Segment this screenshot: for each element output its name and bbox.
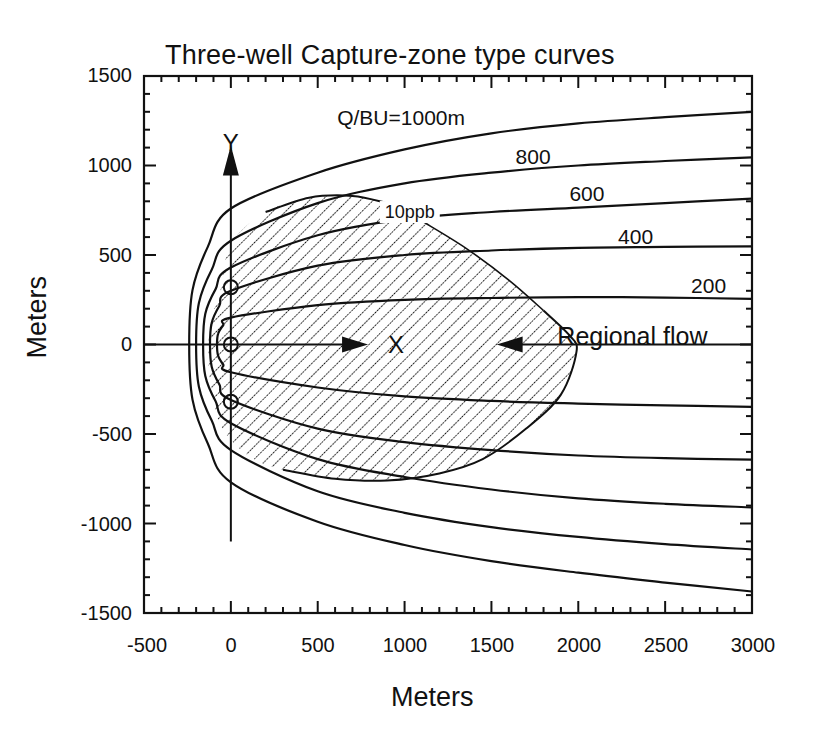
annotation-label: X [388, 331, 404, 358]
annotation-label: 200 [691, 274, 726, 297]
annotation-label: Y [223, 129, 239, 156]
annotation-label: 10ppb [385, 202, 435, 222]
annotation-label: 800 [516, 145, 551, 168]
annotation-label: Regional flow [557, 322, 708, 350]
plot-area: Q/BU=1000m80060040020010ppbXYRegional fl… [0, 0, 821, 752]
annotation-label: Q/BU=1000m [337, 106, 465, 129]
annotation-label: 400 [618, 225, 653, 248]
annotation-label: 600 [569, 182, 604, 205]
